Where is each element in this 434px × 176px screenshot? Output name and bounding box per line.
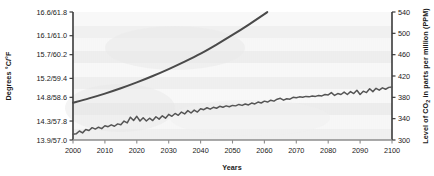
left-tick-labels: 13.9/57.014.3/57.814.8/58.615.2/59.415.7… bbox=[37, 8, 67, 145]
right-axis-title: Level of CO2 in parts per million (PPM) bbox=[421, 8, 431, 144]
left-tick-label: 14.8/58.6 bbox=[37, 93, 67, 102]
right-tick-label: 540 bbox=[398, 8, 410, 17]
x-tick-label: 2070 bbox=[288, 146, 304, 155]
right-tick-label: 420 bbox=[398, 72, 410, 81]
left-tick-label: 15.2/59.4 bbox=[37, 74, 67, 83]
x-tick-label: 2020 bbox=[129, 146, 145, 155]
x-tick-label: 2000 bbox=[65, 146, 81, 155]
right-axis-title-suffix: in parts per million (PPM) bbox=[421, 8, 430, 100]
left-tick-label: 15.7/60.2 bbox=[37, 50, 67, 59]
left-tick-label: 16.6/61.8 bbox=[37, 8, 67, 17]
x-tick-label: 2080 bbox=[320, 146, 336, 155]
right-tick-label: 340 bbox=[398, 114, 410, 123]
right-tick-label: 460 bbox=[398, 50, 410, 59]
left-tick-label: 13.9/57.0 bbox=[37, 136, 67, 145]
x-axis bbox=[73, 140, 392, 144]
left-axis-title: Degrees °C/°F bbox=[4, 51, 13, 101]
left-tick-label: 16.1/61.0 bbox=[37, 31, 67, 40]
right-axis bbox=[392, 12, 396, 140]
x-tick-label: 2090 bbox=[352, 146, 368, 155]
right-axis-title-prefix: Level of CO bbox=[421, 102, 430, 143]
left-tick-label: 14.3/57.8 bbox=[37, 117, 67, 126]
x-tick-labels: 2000201020202030204020502060207020802090… bbox=[65, 146, 400, 155]
x-tick-label: 2030 bbox=[161, 146, 177, 155]
chart-canvas: 13.9/57.014.3/57.814.8/58.615.2/59.415.7… bbox=[0, 0, 434, 176]
x-tick-label: 2010 bbox=[97, 146, 113, 155]
right-tick-label: 500 bbox=[398, 29, 410, 38]
x-tick-label: 2100 bbox=[384, 146, 400, 155]
x-tick-label: 2040 bbox=[192, 146, 208, 155]
climate-chart: 13.9/57.014.3/57.814.8/58.615.2/59.415.7… bbox=[0, 0, 434, 176]
x-axis-title: Years bbox=[222, 163, 242, 172]
left-axis bbox=[70, 12, 74, 140]
right-tick-labels: 300340380420460500540 bbox=[398, 8, 410, 145]
x-tick-label: 2060 bbox=[256, 146, 272, 155]
x-tick-label: 2050 bbox=[224, 146, 240, 155]
right-tick-label: 300 bbox=[398, 136, 410, 145]
right-tick-label: 380 bbox=[398, 93, 410, 102]
